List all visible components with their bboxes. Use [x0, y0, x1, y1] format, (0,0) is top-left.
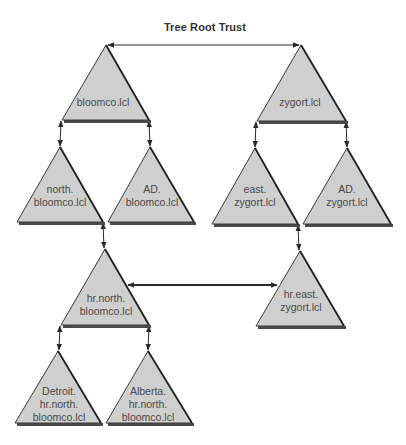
trust-arrow-bloomco-north: [60, 121, 61, 146]
domain-label-detroit: Detroit. hr.north. bloomco.lcl: [33, 385, 86, 424]
domain-label-ad-bloomco: AD. bloomco.lcl: [126, 183, 179, 209]
domain-nodes: [15, 45, 393, 426]
tree-root-trust-label: Tree Root Trust: [0, 21, 406, 33]
trust-arrow-zygort-east: [255, 122, 256, 147]
trust-arrow-east-hr-east: [298, 225, 299, 250]
domain-label-zygort: zygort.lcl: [279, 96, 320, 109]
domain-trust-diagram: [0, 0, 406, 445]
domain-triangle-icon: [62, 45, 149, 120]
trust-arrow-hr-north-alberta: [148, 326, 149, 350]
domain-label-hr-north-bloomco: hr.north. bloomco.lcl: [80, 292, 133, 318]
domain-label-alberta: Alberta. hr.north. bloomco.lcl: [122, 385, 175, 424]
domain-triangle-icon: [257, 45, 346, 121]
domain-label-ad-zygort: AD. zygort.lcl: [326, 183, 367, 209]
domain-label-hr-east-zygort: hr.east. zygort.lcl: [280, 288, 321, 314]
trust-arrow-zygort-ad: [346, 122, 347, 147]
domain-label-east-zygort: east. zygort.lcl: [234, 183, 275, 209]
domain-node-zygort: [257, 45, 348, 124]
trust-arrow-hr-north-detroit: [59, 326, 60, 350]
domain-label-north-bloomco: north. bloomco.lcl: [34, 183, 87, 209]
trust-arrow-bloomco-ad: [149, 121, 150, 146]
domain-label-bloomco: bloomco.lcl: [77, 96, 130, 109]
trust-arrow-north-hr-north: [103, 223, 104, 248]
domain-node-bloomco: [62, 45, 151, 123]
